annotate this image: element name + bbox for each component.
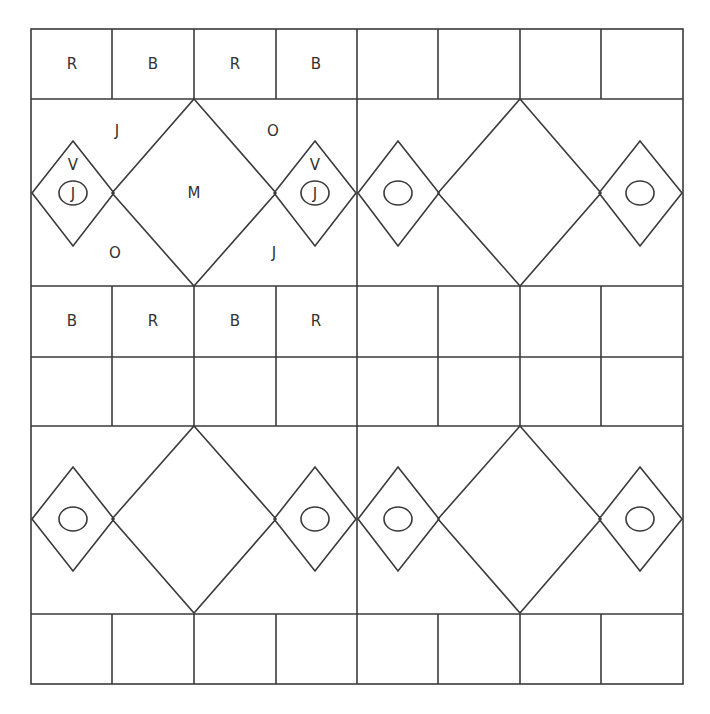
corner-label: O	[109, 244, 121, 262]
bottom-row-dividers	[112, 614, 601, 684]
large-diamond	[438, 99, 601, 286]
oval	[301, 507, 329, 531]
small-diamond	[274, 467, 356, 571]
middle-row-dividers	[112, 286, 601, 426]
oval	[626, 507, 654, 531]
large-diamond	[438, 426, 601, 613]
large-diamond	[112, 426, 276, 613]
diamond-top-label: V	[68, 156, 79, 174]
oval	[384, 181, 412, 205]
cell-label: B	[311, 55, 321, 73]
small-diamond	[599, 141, 682, 246]
oval	[384, 507, 412, 531]
corner-label: J	[114, 122, 119, 140]
small-diamond	[358, 467, 439, 571]
cell-label: R	[67, 55, 77, 73]
cell-label: R	[230, 55, 240, 73]
cell-label: R	[311, 312, 321, 330]
corner-label: O	[267, 122, 279, 140]
cell-label: B	[230, 312, 240, 330]
center-label: M	[188, 184, 201, 202]
corner-label: J	[271, 244, 276, 262]
cell-label: B	[148, 55, 158, 73]
small-diamond	[32, 467, 114, 571]
band1-labels: M J O O J V J V J	[68, 122, 321, 262]
diamond-top-label: V	[310, 156, 321, 174]
small-diamond	[358, 141, 439, 246]
oval	[626, 181, 654, 205]
cell-label: B	[67, 312, 77, 330]
quilt-diagram: R B R B M J O O J V J V J B R B R	[0, 0, 710, 714]
cell-label: R	[148, 312, 158, 330]
oval	[59, 507, 87, 531]
small-diamond	[599, 467, 682, 571]
top-row-dividers	[112, 29, 601, 99]
oval-label: J	[312, 185, 317, 203]
oval-label: J	[70, 185, 75, 203]
